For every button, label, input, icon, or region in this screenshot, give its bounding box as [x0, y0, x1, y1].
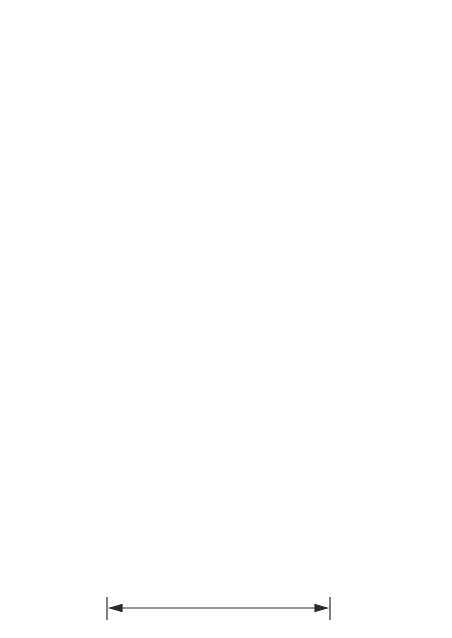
arrowhead-left-icon — [110, 605, 122, 612]
dimension-line — [107, 597, 330, 620]
arrowhead-right-icon — [315, 605, 327, 612]
plant-illustration — [0, 0, 452, 638]
